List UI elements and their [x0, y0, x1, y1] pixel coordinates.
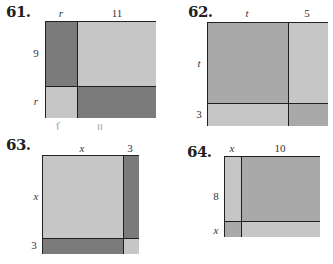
region-3-by-3 [123, 238, 139, 254]
vertical-divider [241, 157, 242, 237]
horizontal-divider [43, 238, 139, 239]
side-label-3: 3 [31, 239, 37, 251]
region-5-by-t [288, 23, 328, 103]
vertical-divider [77, 22, 78, 118]
region-3-by-x [123, 156, 139, 238]
area-model-rectangle [207, 22, 328, 126]
top-label-x: x [230, 142, 235, 154]
top-label-t: t [245, 7, 248, 19]
side-label-3: 3 [196, 108, 202, 120]
side-label-8: 8 [213, 190, 219, 202]
region-r-by-9 [46, 22, 77, 86]
region-r-by-r [46, 86, 77, 118]
vertical-divider [288, 23, 289, 126]
top-label-10: 10 [275, 142, 286, 154]
region-x-by-x [43, 156, 123, 238]
top-label-11: 11 [112, 7, 123, 19]
pencil-mark: ıı [97, 120, 103, 133]
pencil-mark: ſ [56, 120, 60, 133]
side-label-x: x [34, 190, 39, 202]
region-11-by-r [77, 86, 156, 118]
region-10-by-x [241, 221, 320, 237]
region-x-by-x [225, 221, 241, 237]
region-11-by-9 [77, 22, 156, 86]
region-10-by-8 [241, 157, 320, 221]
region-x-by-8 [225, 157, 241, 221]
top-label-5: 5 [304, 7, 310, 19]
region-5-by-3 [288, 103, 328, 126]
area-model-rectangle [42, 155, 139, 254]
region-t-by-t [208, 23, 288, 103]
problem-number: 61. [6, 3, 31, 21]
horizontal-divider [225, 221, 320, 222]
top-label-3: 3 [127, 142, 133, 154]
area-model-rectangle [45, 21, 156, 118]
side-label-t: t [197, 57, 200, 69]
problem-number: 63. [6, 136, 31, 154]
side-label-9: 9 [33, 47, 39, 59]
area-model-rectangle [224, 156, 320, 237]
side-label-r: r [34, 95, 38, 107]
top-label-x: x [80, 142, 85, 154]
horizontal-divider [208, 103, 328, 104]
region-t-by-3 [208, 103, 288, 126]
problem-number: 62. [188, 3, 213, 21]
top-label-r: r [59, 7, 63, 19]
problem-number: 64. [187, 143, 212, 161]
side-label-x: x [214, 224, 219, 236]
horizontal-divider [46, 86, 156, 87]
region-x-by-3 [43, 238, 123, 254]
